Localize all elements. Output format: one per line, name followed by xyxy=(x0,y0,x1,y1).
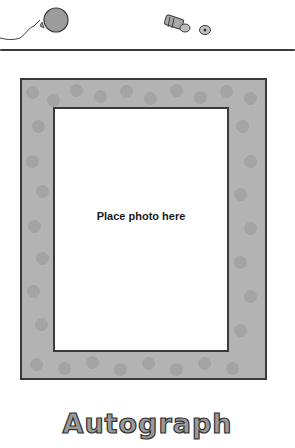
photo-area[interactable] xyxy=(53,107,229,352)
photo-placeholder-text: Place photo here xyxy=(53,210,229,222)
divider-line xyxy=(0,49,295,51)
balloon-icon xyxy=(0,4,80,44)
autograph-title: Autograph xyxy=(0,408,295,439)
confetti-icon xyxy=(198,24,212,36)
party-horn-icon xyxy=(163,14,193,36)
